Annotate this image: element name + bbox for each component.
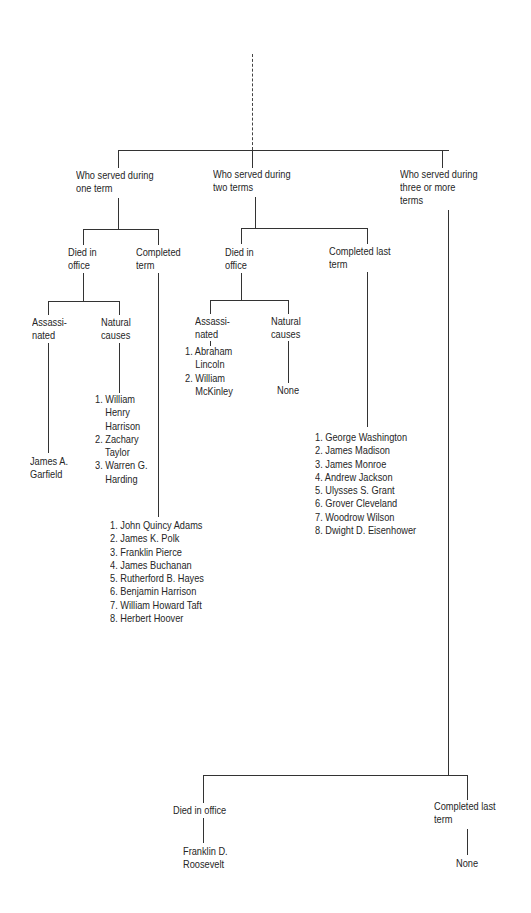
list-item: 7. William Howard Taft <box>110 599 204 612</box>
connector-two-natural-down <box>288 341 289 383</box>
connector-one-natural <box>119 301 120 315</box>
list-item: 1. George Washington <box>315 431 416 444</box>
node-two-terms-assassinated: Assassi- nated <box>195 315 230 341</box>
list-item: 5. Ulysses S. Grant <box>315 484 416 497</box>
connector-natural-one <box>119 343 120 393</box>
connector-three-terms <box>442 150 443 168</box>
node-two-terms: Who served during two terms <box>213 168 291 194</box>
list-item: Franklin D. Roosevelt <box>183 845 228 872</box>
list-item: 6. Benjamin Harrison <box>110 585 204 598</box>
connector-two-died-down <box>241 273 242 300</box>
three-terms-split-bar <box>203 775 468 776</box>
list-item: 7. Woodrow Wilson <box>315 511 416 524</box>
node-one-term-died-in-office: Died in office <box>68 246 97 272</box>
node-two-terms-completed-last-term: Completed last term <box>329 245 391 271</box>
connector-one-term-down <box>118 198 119 229</box>
list-item: 4. Andrew Jackson <box>315 471 416 484</box>
connector-two-assassinated <box>210 300 211 314</box>
connector-two-completed-down <box>367 272 368 427</box>
list-three-terms-completed: None <box>456 857 478 870</box>
one-died-split-bar <box>48 301 120 302</box>
node-one-term-completed-term: Completed term <box>136 246 181 272</box>
top-branch-bar <box>118 150 449 151</box>
connector-fdr <box>203 818 204 843</box>
root-dashed-connector <box>252 54 253 150</box>
list-item: 3. Franklin Pierce <box>110 546 204 559</box>
node-three-terms-completed-last-term: Completed last term <box>434 800 496 826</box>
connector-two-terms-down <box>255 197 256 228</box>
list-item: 3. Warren G. Harding <box>95 459 148 486</box>
list-item: 3. James Monroe <box>315 458 416 471</box>
list-two-terms-assassinated: 1. Abraham Lincoln 2. William McKinley <box>185 345 233 398</box>
connector-two-died <box>241 228 242 244</box>
list-two-terms-natural-causes: None <box>277 384 299 397</box>
connector-three-completed <box>467 775 468 800</box>
list-item: 2. William McKinley <box>185 372 233 399</box>
list-item: 2. James K. Polk <box>110 532 204 545</box>
connector-one-died <box>83 229 84 245</box>
node-two-terms-died-in-office: Died in office <box>225 246 254 272</box>
connector-one-assassinated <box>48 301 49 315</box>
list-item: 1. William Henry Harrison <box>95 393 148 433</box>
two-died-split-bar <box>210 300 289 301</box>
node-three-or-more-terms: Who served during three or more terms <box>400 168 478 207</box>
list-item: 8. Dwight D. Eisenhower <box>315 524 416 537</box>
list-one-term-assassinated: James A. Garfield <box>30 455 68 482</box>
list-item: 1. John Quincy Adams <box>110 519 204 532</box>
list-one-term-completed: 1. John Quincy Adams 2. James K. Polk 3.… <box>110 519 204 625</box>
node-three-terms-died-in-office: Died in office <box>173 804 226 817</box>
connector-one-term <box>118 150 119 168</box>
list-three-terms-died: Franklin D. Roosevelt <box>183 845 228 872</box>
list-two-terms-completed: 1. George Washington 2. James Madison 3.… <box>315 431 416 537</box>
connector-one-died-down <box>83 273 84 301</box>
list-one-term-natural-causes: 1. William Henry Harrison 2. Zachary Tay… <box>95 393 148 486</box>
connector-completed-one <box>158 273 159 517</box>
list-item: 6. Grover Cleveland <box>315 497 416 510</box>
connector-two-natural <box>288 300 289 314</box>
connector-three-died <box>203 775 204 803</box>
node-one-term-assassinated: Assassi- nated <box>32 316 67 342</box>
list-item: None <box>277 384 299 397</box>
node-two-terms-natural-causes: Natural causes <box>271 315 301 341</box>
list-item: 2. James Madison <box>315 444 416 457</box>
list-item: 1. Abraham Lincoln <box>185 345 233 372</box>
list-item: James A. Garfield <box>30 455 68 482</box>
node-one-term-natural-causes: Natural causes <box>101 316 131 342</box>
list-item: 8. Herbert Hoover <box>110 612 204 625</box>
connector-garfield <box>48 343 49 453</box>
list-item: 4. James Buchanan <box>110 559 204 572</box>
list-item: None <box>456 857 478 870</box>
connector-two-completed <box>367 228 368 244</box>
presidents-tree-diagram: Who served during one term Who served du… <box>0 0 531 913</box>
two-terms-split-bar <box>241 228 368 229</box>
connector-three-terms-down <box>448 210 449 775</box>
list-item: 2. Zachary Taylor <box>95 433 148 460</box>
connector-three-none <box>467 829 468 855</box>
list-item: 5. Rutherford B. Hayes <box>110 572 204 585</box>
one-term-split-bar <box>83 229 159 230</box>
connector-one-completed <box>158 229 159 245</box>
node-one-term: Who served during one term <box>76 169 154 195</box>
connector-two-terms <box>252 150 253 168</box>
